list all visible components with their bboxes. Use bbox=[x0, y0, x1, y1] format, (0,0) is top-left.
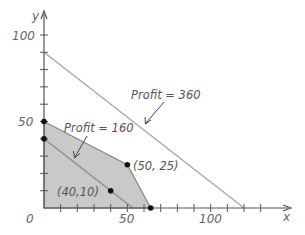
profit-360-arrow bbox=[146, 102, 164, 123]
origin-label: 0 bbox=[26, 212, 34, 226]
y-axis-label: y bbox=[31, 9, 40, 23]
vertex-point bbox=[108, 188, 114, 194]
vertex-point bbox=[41, 119, 47, 125]
linear-programming-chart: y x 0 50 100 50 100 Profit = 360 Profit … bbox=[0, 0, 305, 235]
y-tick-label-100: 100 bbox=[12, 29, 35, 43]
y-tick-label-50: 50 bbox=[18, 115, 34, 129]
x-tick-label-50: 50 bbox=[119, 212, 135, 226]
x-axis-label: x bbox=[282, 210, 291, 224]
point-label-50-25: (50, 25) bbox=[133, 159, 179, 173]
point-label-40-10: (40,10) bbox=[57, 185, 99, 199]
x-tick-label-100: 100 bbox=[199, 212, 222, 226]
profit-360-label: Profit = 360 bbox=[131, 88, 201, 102]
profit-160-label: Profit = 160 bbox=[64, 121, 134, 135]
vertex-point bbox=[41, 136, 47, 142]
vertex-point bbox=[125, 162, 131, 168]
vertex-point bbox=[148, 205, 154, 211]
